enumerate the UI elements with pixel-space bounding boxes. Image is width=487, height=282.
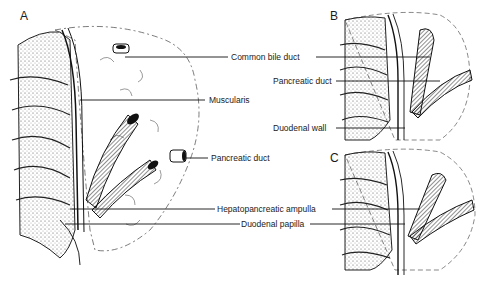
label-pancreatic-duct-b: Pancreatic duct <box>273 76 332 86</box>
panel-b-drawing <box>340 12 472 140</box>
label-duodenal-papilla: Duodenal papilla <box>241 219 304 229</box>
panel-label-a: A <box>20 9 28 23</box>
panel-label-b: B <box>330 9 338 23</box>
label-duodenal-wall: Duodenal wall <box>273 123 326 133</box>
label-hepatopancreatic-ampulla: Hepatopancreatic ampulla <box>217 204 316 214</box>
anatomy-drawing <box>0 0 487 282</box>
label-pancreatic-duct-a: Pancreatic duct <box>211 153 270 163</box>
label-muscularis: Muscularis <box>209 95 250 105</box>
panel-label-c: C <box>330 151 339 165</box>
panel-a-drawing <box>10 26 199 265</box>
panel-c-drawing <box>340 149 475 275</box>
label-common-bile-duct: Common bile duct <box>231 52 300 62</box>
